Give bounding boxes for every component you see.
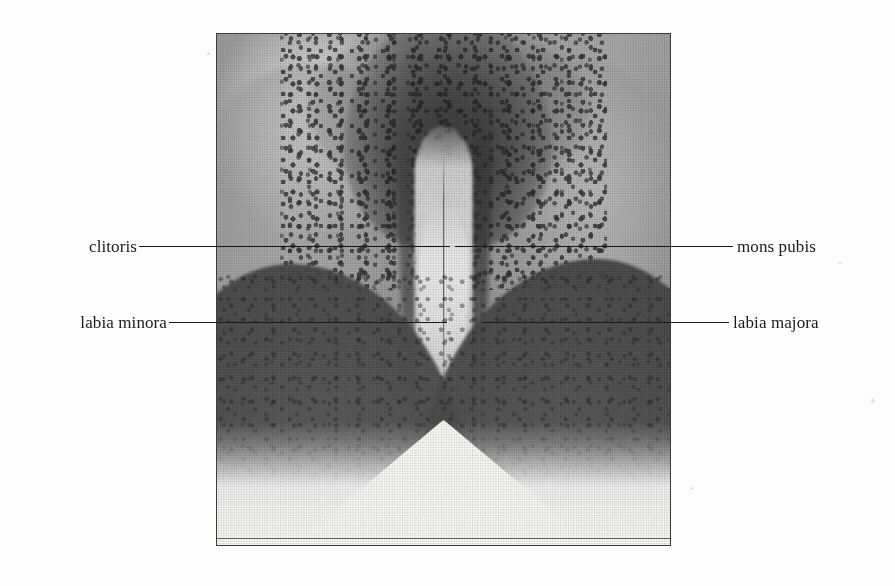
anatomy-figure: clitoris mons pubis labia minora labia m… [0, 0, 895, 586]
paper-speck [690, 487, 693, 490]
paper-speck [838, 262, 842, 264]
anatomical-illustration-plate [216, 33, 671, 546]
label-mons-pubis: mons pubis [737, 238, 816, 255]
plate-image-content [217, 34, 670, 545]
paper-speck [871, 398, 874, 403]
leader-line-labia-minora [169, 322, 447, 323]
paper-speck [207, 52, 210, 55]
leader-line-mons-pubis [455, 246, 733, 247]
label-labia-minora: labia minora [80, 314, 167, 331]
label-labia-majora: labia majora [733, 314, 819, 331]
label-clitoris: clitoris [89, 238, 137, 255]
leader-line-labia-majora [482, 322, 729, 323]
plate-bottom-rule [217, 538, 670, 540]
leader-line-clitoris [139, 246, 450, 247]
